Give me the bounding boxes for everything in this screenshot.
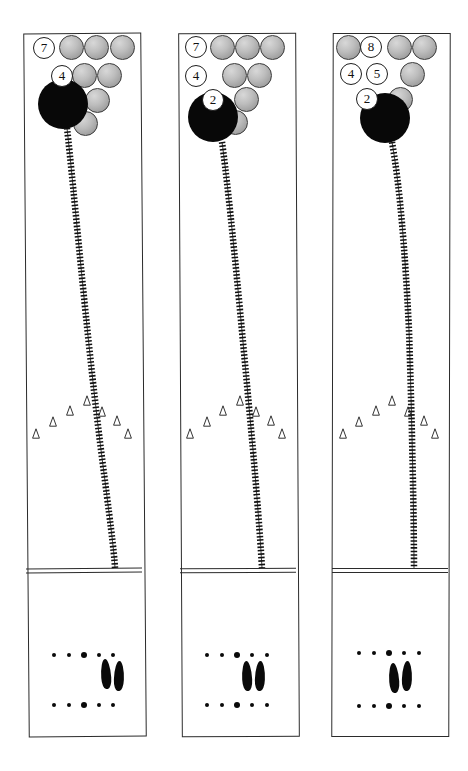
pin-number-label: 2 (356, 88, 378, 110)
bowling-pin (336, 35, 361, 60)
pin-number-label: 5 (366, 63, 388, 85)
bowling-pin (412, 35, 437, 60)
lane-target-arrow (339, 428, 347, 439)
pin-number-text: 2 (364, 91, 371, 107)
pin-number-text: 5 (374, 66, 381, 82)
foul-line (332, 568, 448, 569)
lane-target-arrow (431, 428, 439, 439)
lane-target-arrow (355, 416, 363, 427)
foul-line-secondary (332, 572, 448, 573)
bowling-diagram-figure: 747428452 (0, 0, 468, 771)
lane-target-arrow (372, 405, 380, 416)
lane-diagram-right: 8452 (0, 0, 468, 771)
bowling-pin (387, 35, 412, 60)
lane-target-arrow (404, 406, 412, 417)
lane-target-arrow (420, 415, 428, 426)
lane-target-arrow (388, 395, 396, 406)
pin-number-label: 8 (360, 36, 382, 58)
pin-number-text: 8 (368, 39, 375, 55)
pin-number-label: 4 (340, 63, 362, 85)
pin-number-text: 4 (348, 66, 355, 82)
bowling-pin (400, 62, 425, 87)
